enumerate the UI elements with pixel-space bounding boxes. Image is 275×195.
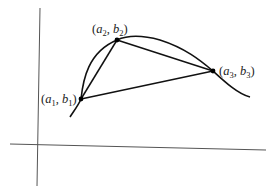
label-p2: (a2, b2) (92, 22, 128, 38)
point-p3 (211, 69, 216, 74)
chord-p1-p2 (81, 40, 117, 99)
diagram-canvas: (a1, b1) (a2, b2) (a3, b3) (0, 0, 275, 195)
point-p1 (79, 97, 84, 102)
chord-p1-p3 (81, 71, 213, 99)
x-axis (10, 144, 266, 150)
label-p1: (a1, b1) (41, 92, 77, 108)
y-axis (37, 8, 40, 186)
chord-p2-p3 (117, 40, 213, 71)
label-p3: (a3, b3) (219, 64, 255, 80)
point-p2 (115, 38, 120, 43)
